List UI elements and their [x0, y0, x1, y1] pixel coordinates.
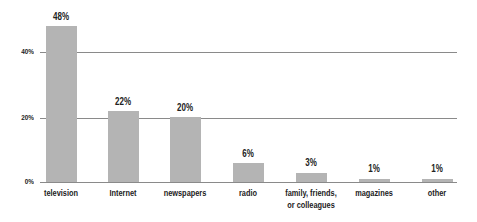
bar-chart: 40% 20% 0% 48% 22% 20% 6% 3% 1% 1% telev… — [0, 0, 477, 222]
value-label-radio: 6% — [224, 148, 272, 159]
x-label-family-friends-colleagues: family, friends, or colleagues — [278, 187, 344, 211]
y-tick-label-20: 20% — [10, 113, 34, 122]
bar-newspapers — [170, 117, 201, 182]
bar-family-friends-colleagues — [296, 173, 327, 182]
x-label-magazines: magazines — [341, 187, 407, 199]
bar-radio — [233, 163, 264, 182]
y-tick-label-40: 40% — [10, 47, 34, 56]
x-label-radio: radio — [215, 187, 281, 199]
value-label-other: 1% — [413, 163, 461, 174]
x-label-newspapers: newspapers — [152, 187, 218, 199]
x-axis-baseline — [46, 182, 457, 183]
value-label-magazines: 1% — [350, 163, 398, 174]
x-label-television: television — [28, 187, 94, 199]
value-label-family: 3% — [287, 157, 335, 168]
bar-television — [46, 26, 77, 182]
bar-internet — [108, 111, 139, 182]
value-label-television: 48% — [37, 11, 85, 22]
x-label-internet: Internet — [90, 187, 156, 199]
gridline-40 — [46, 52, 457, 53]
value-label-newspapers: 20% — [161, 102, 209, 113]
x-label-other: other — [404, 187, 470, 199]
y-tick-label-0: 0% — [10, 177, 34, 186]
value-label-internet: 22% — [99, 96, 147, 107]
